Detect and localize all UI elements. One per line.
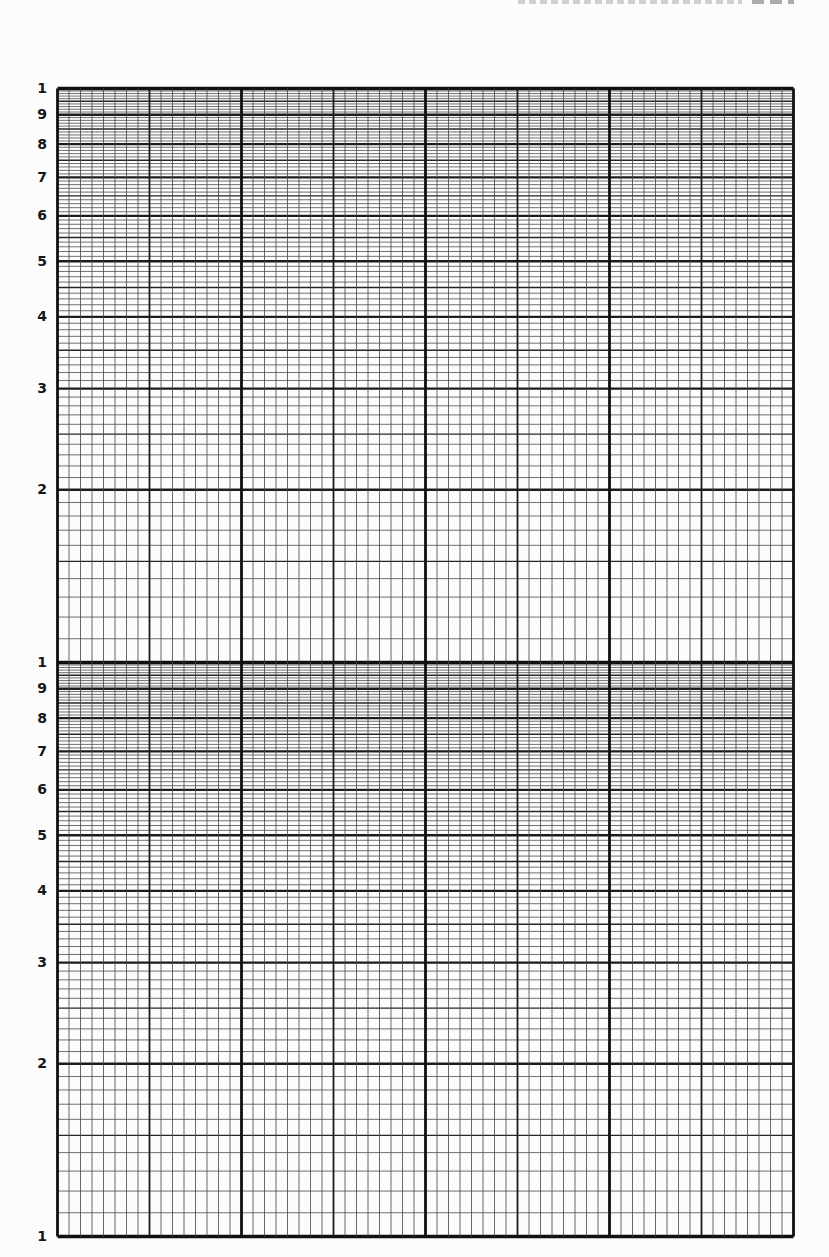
y-axis-label: 2 <box>0 482 47 496</box>
y-axis-label: 7 <box>0 170 47 184</box>
y-axis-label: 4 <box>0 883 47 897</box>
y-axis-label: 7 <box>0 744 47 758</box>
y-axis-label: 1 <box>0 655 47 669</box>
y-axis-label: 8 <box>0 711 47 725</box>
gridlines-group <box>58 89 794 1237</box>
y-axis-label: 4 <box>0 309 47 323</box>
log-grid-svg <box>55 86 796 1239</box>
y-axis-label: 1 <box>0 1229 47 1243</box>
y-axis-label: 6 <box>0 782 47 796</box>
y-axis-label: 6 <box>0 208 47 222</box>
y-axis-label: 3 <box>0 381 47 395</box>
y-axis-label: 5 <box>0 828 47 842</box>
y-axis-label: 8 <box>0 137 47 151</box>
y-axis-label: 2 <box>0 1056 47 1070</box>
y-axis-label: 1 <box>0 81 47 95</box>
y-axis-label: 5 <box>0 254 47 268</box>
log-grid <box>55 86 796 1243</box>
y-axis-label: 3 <box>0 955 47 969</box>
y-axis-label: 9 <box>0 681 47 695</box>
clipped-page-number <box>752 0 794 4</box>
clipped-running-head-text <box>518 0 742 4</box>
y-axis-labels: 1987654321987654321 <box>0 0 47 1257</box>
y-axis-label: 9 <box>0 107 47 121</box>
